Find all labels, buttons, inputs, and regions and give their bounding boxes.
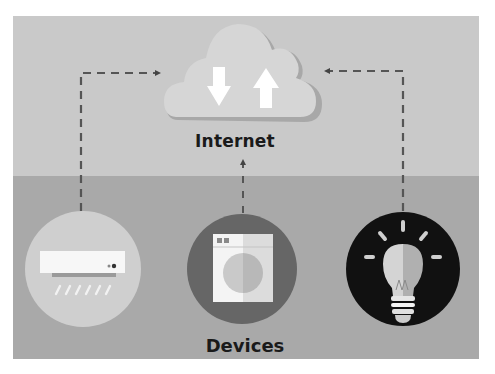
washing-machine-icon (187, 214, 297, 324)
cloud-upload-download-icon (164, 24, 322, 122)
diagram-graphics (0, 0, 495, 374)
air-conditioner-icon (25, 211, 141, 327)
connector-ac-to-internet (81, 73, 158, 211)
internet-label: Internet (185, 131, 285, 151)
devices-label: Devices (190, 335, 300, 356)
connector-bulb-to-internet (327, 71, 403, 211)
light-bulb-icon (346, 212, 460, 326)
